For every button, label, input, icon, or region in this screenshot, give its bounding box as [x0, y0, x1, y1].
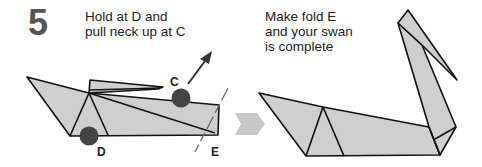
label-d: D	[97, 145, 106, 159]
diagram-canvas	[0, 0, 482, 167]
next-step-chevron-icon	[235, 113, 265, 135]
label-e: E	[211, 145, 219, 159]
label-c: C	[170, 75, 179, 89]
point-c-marker	[172, 89, 191, 108]
folded-swan-base	[27, 77, 219, 136]
completed-swan	[259, 10, 457, 156]
pull-up-arrow-icon	[188, 51, 212, 84]
folded-neck-flap	[89, 80, 163, 93]
swan-body	[259, 93, 440, 156]
point-d-marker	[80, 127, 99, 146]
